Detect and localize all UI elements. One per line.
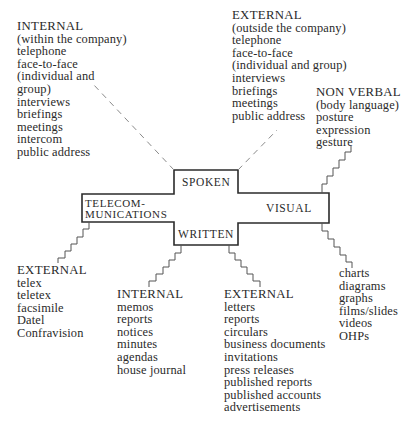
label-telecommunications: TELECOM- MUNICATIONS	[85, 198, 167, 220]
list-item: reports	[117, 313, 186, 326]
list-item: agendas	[117, 351, 186, 364]
heading-written-internal: INTERNAL	[117, 288, 186, 301]
list-item: group)	[17, 83, 127, 96]
dashed-connector-external	[238, 130, 277, 170]
list-item: published reports	[224, 376, 325, 389]
list-item: briefings	[17, 108, 127, 121]
stair-connector-nonverbal	[322, 146, 351, 193]
stair-connector-written-external	[229, 245, 260, 287]
list-item: telephone	[17, 45, 127, 58]
spoken-internal-list: INTERNAL (within the company) telephone …	[17, 20, 127, 159]
list-item: charts	[339, 267, 398, 280]
stair-connector-telecom-external	[58, 222, 89, 263]
list-item: public address	[17, 146, 127, 159]
label-spoken: SPOKEN	[182, 177, 230, 188]
written-internal-list: INTERNAL memos reports notices minutes a…	[117, 288, 186, 376]
heading-nonverbal: NON VERBAL	[316, 86, 401, 99]
heading-telecom-external: EXTERNAL	[17, 264, 87, 277]
list-item: gesture	[316, 136, 401, 149]
label-telecom-line2: MUNICATIONS	[85, 209, 167, 220]
visual-nonverbal-list: NON VERBAL (body language) posture expre…	[316, 86, 401, 149]
written-external-list: EXTERNAL letters reports circulars busin…	[224, 288, 325, 414]
telecom-external-list: EXTERNAL telex teletex facsimile Datel C…	[17, 264, 87, 340]
list-item: telephone	[232, 34, 347, 47]
list-item: Confravision	[17, 327, 87, 340]
heading-spoken-internal: INTERNAL	[17, 20, 127, 33]
heading-written-external: EXTERNAL	[224, 288, 325, 301]
list-item: teletex	[17, 289, 87, 302]
label-visual: VISUAL	[266, 203, 312, 214]
list-item: house journal	[117, 364, 186, 377]
heading-spoken-external: EXTERNAL	[232, 9, 347, 22]
list-item: OHPs	[339, 330, 398, 343]
list-item: invitations	[224, 351, 325, 364]
list-item: reports	[224, 313, 325, 326]
stair-connector-visual-media	[322, 223, 352, 268]
list-item: interviews	[232, 72, 347, 85]
list-item: posture	[316, 111, 401, 124]
label-written: WRITTEN	[178, 229, 234, 240]
list-item: graphs	[339, 292, 398, 305]
stair-connector-written-internal	[149, 245, 181, 287]
visual-media-list: charts diagrams graphs films/slides vide…	[339, 267, 398, 343]
list-item: advertisements	[224, 401, 325, 414]
